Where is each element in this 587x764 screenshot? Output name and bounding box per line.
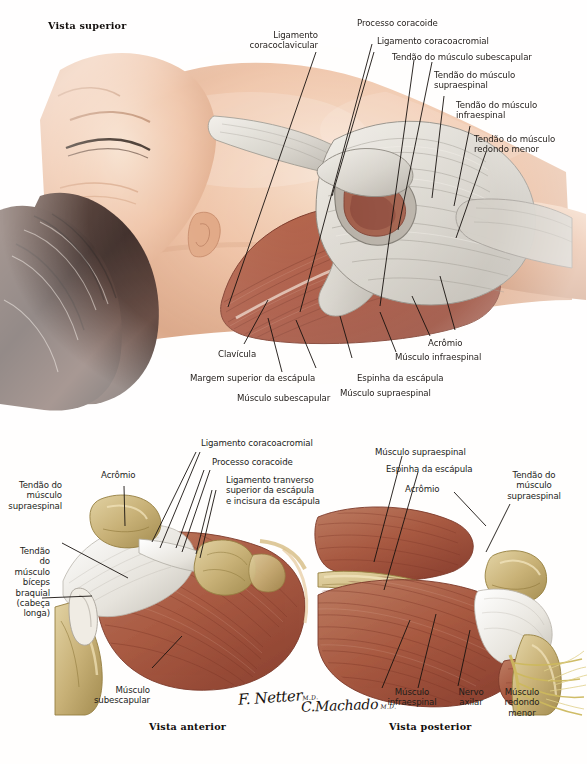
label-espinha-da-escapula: Espinha da escápula — [357, 373, 487, 383]
label-acromio: Acrômio — [428, 338, 508, 348]
label-musculo-subescapular: Músculo subescapular — [237, 393, 387, 403]
label-margem-superior-da-escapula: Margem superior da escápula — [190, 373, 365, 383]
label-tendao-musculo-redondo-menor: Tendão do músculo redondo menor — [474, 134, 587, 155]
anatomy-plate: Vista superior Ligamento coracoclavicula… — [0, 0, 587, 764]
label-acromio-anterior: Acrômio — [101, 470, 161, 480]
signature-machado-suffix: M.D. — [380, 702, 396, 710]
label-musculo-redondo-menor: Músculo redondo menor — [494, 687, 550, 718]
signature-machado: C.MachadoM.D. — [301, 695, 397, 714]
label-tendao-supraespinal-anterior: Tendão do músculo supraespinal — [0, 480, 62, 511]
label-tendao-musculo-infraespinal: Tendão do músculo infraespinal — [456, 100, 586, 121]
posterior-view-caption: Vista posterior — [389, 721, 472, 732]
label-acromio-posterior: Acrômio — [405, 484, 465, 494]
label-tendao-musculo-subescapular: Tendão do músculo subescapular — [392, 52, 582, 62]
top-view-leader-lines — [0, 0, 587, 430]
label-musculo-subescapular-anterior: Músculo subescapular — [78, 685, 150, 706]
label-tendao-supraespinal-posterior: Tendão do músculo supraespinal — [494, 470, 574, 501]
label-clavicula: Clavícula — [218, 349, 288, 359]
label-tendao-musculo-supraespinal: Tendão do músculo supraespinal — [434, 70, 574, 91]
label-ligamento-coracoacromial: Ligamento coracoacromial — [377, 36, 537, 46]
top-view-title: Vista superior — [48, 20, 126, 31]
label-processo-coracoide: Processo coracoide — [357, 18, 477, 28]
label-nervo-axilar: Nervo axilar — [450, 687, 492, 708]
label-tendao-biceps-braquial: Tendão do músculo bíceps braquial (cabeç… — [0, 546, 50, 619]
label-musculo-infraespinal: Músculo infraespinal — [395, 352, 535, 362]
signature-machado-name: C.Machado — [301, 696, 379, 715]
anterior-view-caption: Vista anterior — [149, 721, 226, 732]
label-musculo-supraespinal-posterior: Músculo supraespinal — [375, 447, 515, 457]
label-ligamento-coracoclavicular: Ligamento coracoclavicular — [232, 30, 318, 51]
